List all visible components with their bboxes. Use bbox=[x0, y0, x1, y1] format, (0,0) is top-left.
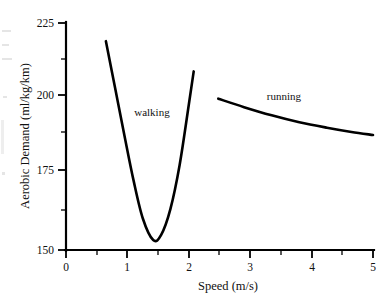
walking-series-label: walking bbox=[134, 106, 170, 118]
y-axis-title: Aerobic Demand (ml/kg/km) bbox=[18, 63, 32, 209]
x-tick-label-1: 1 bbox=[124, 261, 130, 273]
scan-artifact-mark bbox=[2, 44, 9, 46]
walking-curve bbox=[106, 41, 194, 241]
x-tick-label-5: 5 bbox=[370, 261, 376, 273]
aerobic-demand-chart: 225 200 175 150 0 1 2 3 4 5 bbox=[0, 0, 390, 306]
chart-canvas: 225 200 175 150 0 1 2 3 4 5 bbox=[0, 0, 390, 306]
x-tick-label-4: 4 bbox=[309, 261, 315, 273]
y-tick-label-225: 225 bbox=[37, 17, 55, 29]
x-tick-labels: 0 1 2 3 4 5 bbox=[63, 261, 376, 273]
y-tick-labels: 225 200 175 150 bbox=[37, 17, 55, 256]
running-series-label: running bbox=[267, 90, 302, 102]
x-tick-label-3: 3 bbox=[247, 261, 253, 273]
data-series-group bbox=[106, 41, 373, 241]
y-tick-label-175: 175 bbox=[37, 164, 55, 176]
scan-artifact-mark bbox=[2, 58, 12, 60]
scan-artifact-mark bbox=[2, 30, 11, 32]
x-axis-group bbox=[65, 250, 374, 258]
scan-artifact-mark bbox=[3, 96, 7, 98]
x-tick-label-0: 0 bbox=[63, 261, 69, 273]
scan-artifact-mark bbox=[2, 172, 5, 175]
y-tick-label-200: 200 bbox=[37, 89, 55, 101]
y-tick-label-150: 150 bbox=[37, 244, 55, 256]
scan-artifact-mark bbox=[1, 120, 4, 154]
x-axis-title: Speed (m/s) bbox=[198, 279, 258, 293]
y-axis-group bbox=[58, 22, 66, 251]
x-tick-label-2: 2 bbox=[186, 261, 192, 273]
running-curve bbox=[218, 99, 373, 135]
